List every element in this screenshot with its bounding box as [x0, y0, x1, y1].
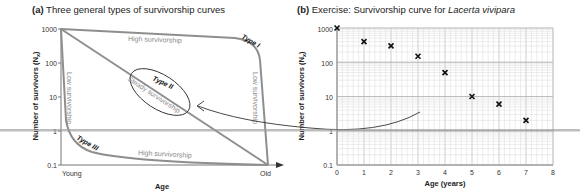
label-high-survivorship-top: High survivorship [128, 35, 182, 45]
svg-text:8: 8 [551, 169, 555, 176]
survivorship-figure: (a) Three general types of survivorship … [0, 0, 580, 194]
x-axis-arrow-icon [276, 162, 284, 168]
panel-b-x-axis-label: Age (years) [425, 179, 466, 188]
horizontal-band [0, 129, 580, 132]
label-type-ii: Type II [151, 75, 175, 92]
svg-text:0: 0 [335, 169, 339, 176]
svg-text:4: 4 [443, 169, 447, 176]
panel-a-y-ticks: 1000 100 10 1 0.1 [41, 26, 61, 169]
svg-text:1: 1 [362, 169, 366, 176]
svg-text:10: 10 [325, 94, 333, 101]
panel-b-grid [337, 28, 553, 165]
label-high-survivorship-bottom: High survivorship [138, 149, 192, 160]
svg-text:1000: 1000 [317, 26, 333, 33]
svg-text:100: 100 [321, 60, 333, 67]
panel-b-x-ticks: 0 1 2 3 4 5 6 7 8 [335, 169, 555, 176]
svg-text:0.1: 0.1 [323, 162, 333, 169]
svg-text:1000: 1000 [41, 26, 57, 33]
x-tick-young: Young [62, 170, 82, 178]
panel-b-title: (b) Exercise: Survivorship curve for Lac… [297, 4, 515, 15]
panel-b-data-markers [335, 26, 529, 123]
svg-text:10: 10 [49, 94, 57, 101]
svg-text:6: 6 [497, 169, 501, 176]
panel-a-x-axis-label: Age [155, 182, 169, 191]
label-low-survivorship-right: Low survivorship [251, 72, 259, 124]
label-type-i: Type I [240, 33, 262, 50]
panel-b: (b) Exercise: Survivorship curve for Lac… [297, 4, 555, 188]
label-low-survivorship-left: Low survivorship [65, 72, 73, 124]
svg-text:3: 3 [416, 169, 420, 176]
svg-text:2: 2 [389, 169, 393, 176]
panel-b-y-ticks: 1000 100 10 1 0.1 [317, 26, 333, 169]
panel-a: (a) Three general types of survivorship … [31, 4, 284, 191]
svg-text:7: 7 [524, 169, 528, 176]
type-ii-highlight-ellipse [122, 59, 198, 125]
svg-text:5: 5 [470, 169, 474, 176]
panel-a-title: (a) Three general types of survivorship … [32, 4, 225, 15]
connector-arrow [198, 106, 420, 130]
x-tick-old: Old [260, 170, 271, 177]
svg-text:100: 100 [45, 60, 57, 67]
svg-text:0.1: 0.1 [47, 162, 57, 169]
panel-a-y-axis-label: Number of survivors (Nx) [31, 51, 41, 140]
